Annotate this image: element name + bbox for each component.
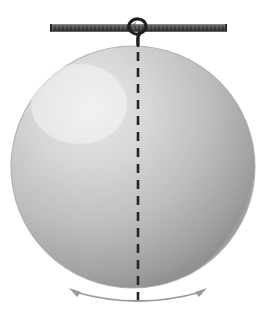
rod-right-cap [225,24,227,31]
sphere-highlight [31,64,127,144]
pendulum-sphere [11,46,255,288]
horizontal-support-rod [50,24,227,31]
hook-shank [138,33,139,46]
figure-canvas [0,0,269,328]
pendulum-figure [0,0,269,328]
rod-left-cap [50,24,52,31]
